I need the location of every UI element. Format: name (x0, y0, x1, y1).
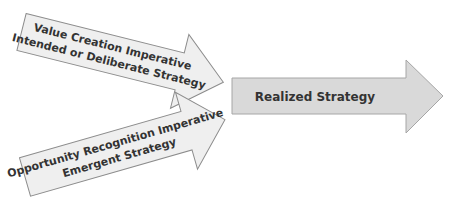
strategy-diagram: Value Creation Imperative Intended or De… (0, 0, 460, 207)
realized-strategy-label: Realized Strategy (255, 90, 375, 104)
realized-strategy-arrow: Realized Strategy (232, 60, 443, 133)
opportunity-recognition-arrow: Opportunity Recognition Imperative Emerg… (0, 81, 236, 207)
value-creation-arrow: Value Creation Imperative Intended or De… (5, 0, 232, 119)
